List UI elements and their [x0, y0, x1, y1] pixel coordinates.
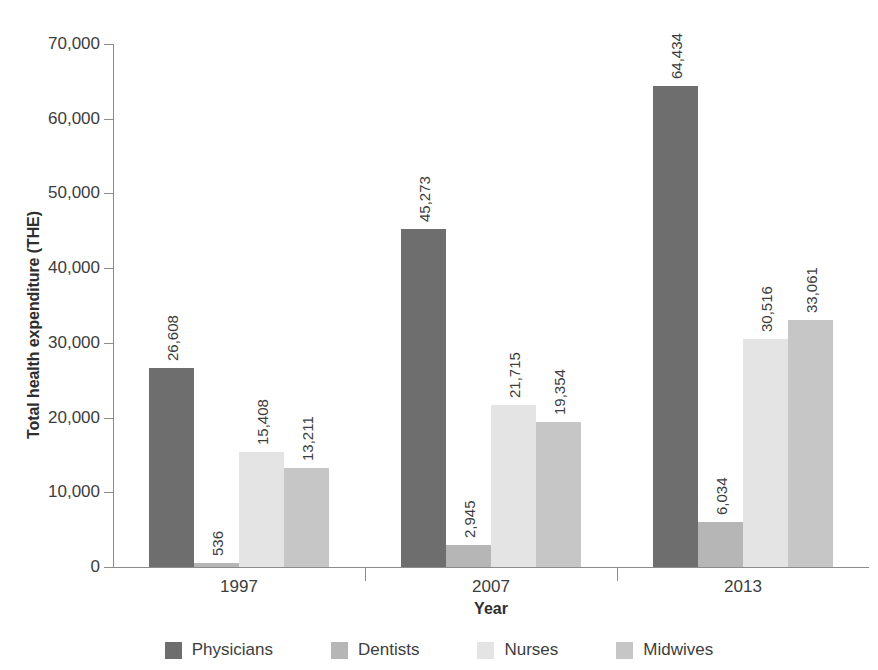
bar-value-label: 21,715 [505, 352, 522, 398]
bar[interactable] [239, 452, 284, 567]
bar-slot: 64,434 [653, 44, 698, 567]
y-tick-mark [104, 567, 113, 568]
bar-value-label: 64,434 [667, 33, 684, 79]
y-tick-mark [104, 492, 113, 493]
bar-group: 45,2732,94521,71519,3542007 [365, 44, 617, 567]
y-tick-label: 60,000 [48, 109, 100, 129]
bar-group-bars: 64,4346,03430,51633,061 [653, 44, 833, 567]
bar-chart-figure: Total health expenditure (THE) 010,00020… [0, 0, 878, 670]
legend-label: Physicians [192, 640, 273, 660]
x-tick-label: 2007 [365, 577, 617, 597]
x-tick-label: 2013 [617, 577, 869, 597]
legend-swatch-icon [165, 642, 182, 659]
bar[interactable] [401, 229, 446, 567]
bar[interactable] [653, 86, 698, 567]
bar-value-label: 30,516 [757, 286, 774, 332]
y-tick-mark [104, 119, 113, 120]
y-tick-label: 20,000 [48, 408, 100, 428]
bar[interactable] [491, 405, 536, 567]
bar-slot: 6,034 [698, 44, 743, 567]
legend-swatch-icon [331, 642, 348, 659]
bar-value-label: 13,211 [298, 417, 315, 462]
plot-area: 010,00020,00030,00040,00050,00060,00070,… [113, 44, 869, 567]
legend-item[interactable]: Midwives [616, 640, 713, 660]
legend-swatch-icon [616, 642, 633, 659]
bar-slot: 45,273 [401, 44, 446, 567]
y-tick-label: 10,000 [48, 482, 100, 502]
y-axis-title: Total health expenditure (THE) [25, 125, 43, 525]
bar[interactable] [536, 422, 581, 567]
y-tick-label: 40,000 [48, 258, 100, 278]
bar-value-label: 19,354 [550, 370, 567, 416]
bar-slot: 19,354 [536, 44, 581, 567]
bar-slot: 2,945 [446, 44, 491, 567]
bar-slot: 33,061 [788, 44, 833, 567]
y-tick-label: 70,000 [48, 34, 100, 54]
bar-slot: 15,408 [239, 44, 284, 567]
bar-value-label: 6,034 [712, 477, 729, 515]
y-tick-label: 50,000 [48, 183, 100, 203]
chart-legend: PhysiciansDentistsNursesMidwives [0, 640, 878, 660]
x-axis-line [113, 567, 869, 568]
bar-slot: 21,715 [491, 44, 536, 567]
legend-label: Nurses [504, 640, 558, 660]
bar[interactable] [788, 320, 833, 567]
bar-group: 26,60853615,40813,2111997 [113, 44, 365, 567]
bar-slot: 26,608 [149, 44, 194, 567]
bar-value-label: 15,408 [253, 399, 270, 445]
legend-item[interactable]: Physicians [165, 640, 273, 660]
bar-value-label: 2,945 [460, 500, 477, 538]
bar[interactable] [698, 522, 743, 567]
y-tick-mark [104, 343, 113, 344]
y-tick-mark [104, 193, 113, 194]
bar[interactable] [743, 339, 788, 567]
legend-label: Midwives [643, 640, 713, 660]
y-tick-label: 30,000 [48, 333, 100, 353]
bar-value-label: 45,273 [415, 176, 432, 222]
bar[interactable] [446, 545, 491, 567]
legend-item[interactable]: Nurses [477, 640, 558, 660]
legend-swatch-icon [477, 642, 494, 659]
y-tick-label: 0 [91, 557, 100, 577]
legend-label: Dentists [358, 640, 419, 660]
bar-slot: 536 [194, 44, 239, 567]
bar-slot: 30,516 [743, 44, 788, 567]
bar-group: 64,4346,03430,51633,0612013 [617, 44, 869, 567]
y-tick-mark [104, 44, 113, 45]
bar[interactable] [149, 368, 194, 567]
bar-value-label: 33,061 [802, 267, 819, 313]
x-tick-label: 1997 [113, 577, 365, 597]
bar-group-bars: 26,60853615,40813,211 [149, 44, 329, 567]
bar-group-bars: 45,2732,94521,71519,354 [401, 44, 581, 567]
y-tick-mark [104, 268, 113, 269]
bar[interactable] [194, 563, 239, 567]
bar-slot: 13,211 [284, 44, 329, 567]
bar[interactable] [284, 468, 329, 567]
y-tick-mark [104, 418, 113, 419]
x-axis-title: Year [113, 600, 869, 618]
legend-item[interactable]: Dentists [331, 640, 419, 660]
bar-value-label: 26,608 [163, 315, 180, 361]
bar-value-label: 536 [208, 531, 225, 556]
